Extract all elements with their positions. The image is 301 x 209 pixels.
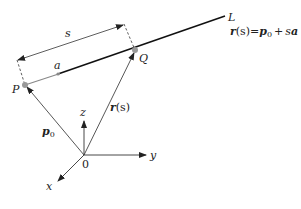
line-vector-diagram: s a P Q L r(s)=p0+sa p0 r(s) z y x 0 xyxy=(0,0,301,209)
label-origin: 0 xyxy=(82,158,89,171)
label-a: a xyxy=(54,59,61,72)
dashed-extension-right xyxy=(124,24,135,50)
label-P: P xyxy=(11,83,20,96)
axis-x xyxy=(58,155,84,181)
direction-arrow-dot xyxy=(56,72,59,75)
dashed-extension-left xyxy=(17,60,25,85)
label-Q: Q xyxy=(139,52,148,65)
point-P xyxy=(22,82,28,88)
label-r-s: r(s) xyxy=(110,101,130,114)
label-z: z xyxy=(79,106,86,119)
label-x: x xyxy=(46,180,53,193)
line-L xyxy=(58,16,225,74)
label-L: L xyxy=(227,11,235,24)
label-s: s xyxy=(65,27,71,40)
label-p0: p0 xyxy=(42,125,55,139)
direction-vector-a xyxy=(25,74,60,86)
point-Q xyxy=(132,47,138,53)
label-y: y xyxy=(149,149,157,162)
vector-p0 xyxy=(27,87,84,155)
equation: r(s)=p0+sa xyxy=(230,25,298,39)
